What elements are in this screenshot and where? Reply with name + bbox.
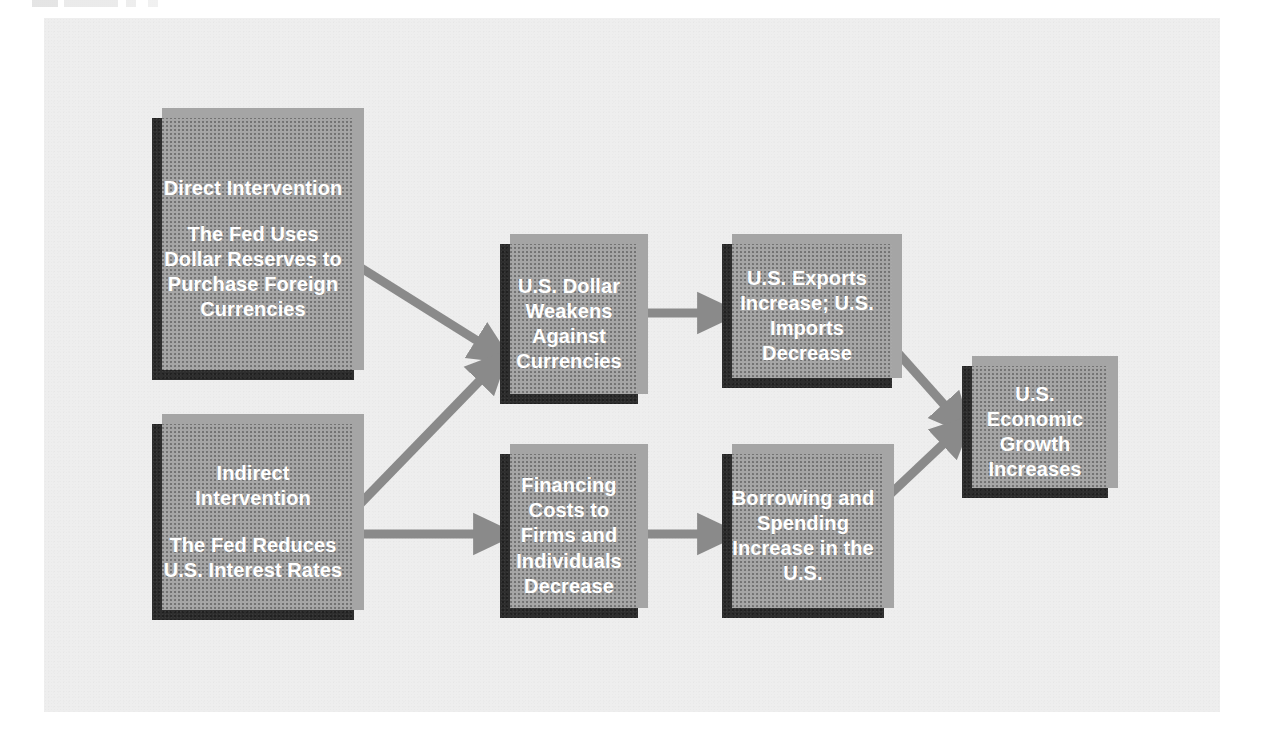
node-growth-body: U.S. Economic Growth Increases bbox=[970, 382, 1100, 483]
node-direct-body: The Fed Uses Dollar Reserves to Purchase… bbox=[160, 222, 346, 323]
node-exports-imports: U.S. Exports Increase; U.S. Imports Decr… bbox=[722, 244, 892, 388]
node-financing-body: Financing Costs to Firms and Individuals… bbox=[508, 473, 630, 599]
node-indirect-body: The Fed Reduces U.S. Interest Rates bbox=[160, 533, 346, 583]
diagram-canvas: Direct Intervention The Fed Uses Dollar … bbox=[0, 0, 1268, 738]
node-dollar-weakens: U.S. Dollar Weakens Against Currencies bbox=[500, 244, 638, 404]
node-trade-text: U.S. Exports Increase; U.S. Imports Decr… bbox=[730, 266, 884, 367]
node-growth-text: U.S. Economic Growth Increases bbox=[970, 382, 1100, 483]
node-financing-text: Financing Costs to Firms and Individuals… bbox=[508, 473, 630, 599]
node-dollar-text: U.S. Dollar Weakens Against Currencies bbox=[508, 274, 630, 375]
node-indirect-text: Indirect Intervention The Fed Reduces U.… bbox=[160, 461, 346, 583]
node-borrowing-body: Borrowing and Spending Increase in the U… bbox=[730, 486, 876, 587]
node-borrowing-spending: Borrowing and Spending Increase in the U… bbox=[722, 454, 884, 618]
node-borrowing-text: Borrowing and Spending Increase in the U… bbox=[730, 486, 876, 587]
node-indirect-heading: Indirect Intervention bbox=[160, 461, 346, 511]
node-economic-growth: U.S. Economic Growth Increases bbox=[962, 366, 1108, 498]
node-direct-intervention: Direct Intervention The Fed Uses Dollar … bbox=[152, 118, 354, 380]
node-financing-costs: Financing Costs to Firms and Individuals… bbox=[500, 454, 638, 618]
node-dollar-body: U.S. Dollar Weakens Against Currencies bbox=[508, 274, 630, 375]
arrow-indirect-to-dollar bbox=[358, 368, 492, 506]
arrow-direct-to-dollar bbox=[358, 266, 492, 350]
node-trade-body: U.S. Exports Increase; U.S. Imports Decr… bbox=[730, 266, 884, 367]
arrow-trade-to-growth bbox=[890, 344, 956, 418]
node-indirect-intervention: Indirect Intervention The Fed Reduces U.… bbox=[152, 424, 354, 620]
arrow-borrowing-to-growth bbox=[884, 432, 956, 500]
node-direct-heading: Direct Intervention bbox=[160, 176, 346, 201]
node-direct-text: Direct Intervention The Fed Uses Dollar … bbox=[160, 176, 346, 323]
